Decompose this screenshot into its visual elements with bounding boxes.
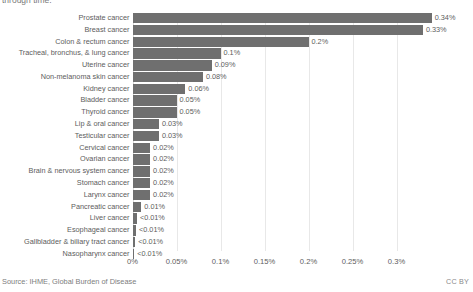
x-axis-tick-label: 0% bbox=[127, 256, 138, 268]
category-label: Brain & nervous system cancer bbox=[29, 166, 130, 176]
bar[interactable] bbox=[133, 13, 432, 23]
category-label: Gallbladder & biliary tract cancer bbox=[24, 237, 129, 247]
category-label: Cervical cancer bbox=[79, 143, 129, 153]
bar-value-label: 0.06% bbox=[188, 84, 209, 94]
bar-row[interactable]: Breast cancer0.33% bbox=[0, 25, 473, 35]
bar-value-label: <0.01% bbox=[140, 213, 165, 223]
bar-value-label: 0.2% bbox=[312, 37, 329, 47]
category-label: Kidney cancer bbox=[83, 84, 129, 94]
bar-row[interactable]: Tracheal, bronchus, & lung cancer0.1% bbox=[0, 48, 473, 58]
bar-value-label: 0.01% bbox=[144, 202, 165, 212]
category-label: Ovarian cancer bbox=[80, 154, 129, 164]
x-axis: 0%0.05%0.1%0.15%0.2%0.25%0.3% bbox=[0, 256, 473, 268]
bar-row[interactable]: Lip & oral cancer0.03% bbox=[0, 119, 473, 129]
bar-row[interactable]: Uterine cancer0.09% bbox=[0, 60, 473, 70]
x-axis-tick-label: 0.05% bbox=[166, 256, 188, 268]
bar[interactable] bbox=[133, 25, 423, 35]
bar-row[interactable]: Larynx cancer0.02% bbox=[0, 190, 473, 200]
category-label: Tracheal, bronchus, & lung cancer bbox=[19, 48, 130, 58]
category-label: Non-melanoma skin cancer bbox=[41, 72, 130, 82]
bar-row[interactable]: Brain & nervous system cancer0.02% bbox=[0, 166, 473, 176]
category-label: Pancreatic cancer bbox=[71, 202, 129, 212]
subtitle-fragment: through time. bbox=[2, 0, 202, 9]
bar-rows: Prostate cancer0.34%Breast cancer0.33%Co… bbox=[0, 13, 473, 260]
bar-value-label: 0.34% bbox=[435, 13, 456, 23]
bar[interactable] bbox=[133, 143, 151, 153]
category-label: Colon & rectum cancer bbox=[55, 37, 129, 47]
bar[interactable] bbox=[133, 107, 177, 117]
bar-row[interactable]: Liver cancer<0.01% bbox=[0, 213, 473, 223]
bar[interactable] bbox=[133, 237, 136, 247]
bar-value-label: 0.02% bbox=[153, 143, 174, 153]
subtitle-fragment-text: through time. bbox=[2, 0, 202, 5]
bar[interactable] bbox=[133, 190, 151, 200]
source-note: Source: IHME, Global Burden of Disease bbox=[2, 277, 136, 287]
bar[interactable] bbox=[133, 202, 142, 212]
x-axis-tick-label: 0.15% bbox=[254, 256, 276, 268]
bar-row[interactable]: Bladder cancer0.05% bbox=[0, 95, 473, 105]
bar-row[interactable]: Ovarian cancer0.02% bbox=[0, 154, 473, 164]
x-axis-tick-label: 0.1% bbox=[212, 256, 229, 268]
x-axis-tick-label: 0.3% bbox=[388, 256, 405, 268]
bar[interactable] bbox=[133, 60, 212, 70]
bar-value-label: 0.02% bbox=[153, 178, 174, 188]
bar[interactable] bbox=[133, 154, 151, 164]
bar-row[interactable]: Non-melanoma skin cancer0.08% bbox=[0, 72, 473, 82]
bar-row[interactable]: Kidney cancer0.06% bbox=[0, 84, 473, 94]
bar-value-label: 0.05% bbox=[180, 95, 201, 105]
category-label: Prostate cancer bbox=[78, 13, 129, 23]
category-label: Bladder cancer bbox=[80, 95, 129, 105]
bar[interactable] bbox=[133, 84, 186, 94]
license-note: CC BY bbox=[446, 277, 469, 287]
bar-value-label: 0.02% bbox=[153, 166, 174, 176]
bar-row[interactable]: Cervical cancer0.02% bbox=[0, 143, 473, 153]
bar[interactable] bbox=[133, 72, 203, 82]
bar-row[interactable]: Gallbladder & biliary tract cancer<0.01% bbox=[0, 237, 473, 247]
bar-value-label: 0.09% bbox=[215, 60, 236, 70]
category-label: Thyroid cancer bbox=[81, 107, 129, 117]
bar-row[interactable]: Esophageal cancer<0.01% bbox=[0, 225, 473, 235]
bar[interactable] bbox=[133, 166, 151, 176]
bar[interactable] bbox=[133, 119, 159, 129]
bar-row[interactable]: Pancreatic cancer0.01% bbox=[0, 202, 473, 212]
bar[interactable] bbox=[133, 131, 159, 141]
bar-row[interactable]: Prostate cancer0.34% bbox=[0, 13, 473, 23]
bar-value-label: 0.1% bbox=[224, 48, 241, 58]
bar-value-label: 0.08% bbox=[206, 72, 227, 82]
category-label: Esophageal cancer bbox=[67, 225, 129, 235]
bar-value-label: 0.33% bbox=[426, 25, 447, 35]
x-axis-tick-label: 0.2% bbox=[300, 256, 317, 268]
bar[interactable] bbox=[133, 95, 177, 105]
bar[interactable] bbox=[133, 213, 137, 223]
bar-value-label: 0.02% bbox=[153, 154, 174, 164]
category-label: Liver cancer bbox=[90, 213, 130, 223]
bar-row[interactable]: Stomach cancer0.02% bbox=[0, 178, 473, 188]
bar-value-label: <0.01% bbox=[139, 225, 164, 235]
bar-row[interactable]: Thyroid cancer0.05% bbox=[0, 107, 473, 117]
plot-area: Prostate cancer0.34%Breast cancer0.33%Co… bbox=[0, 13, 473, 251]
bar-value-label: 0.05% bbox=[180, 107, 201, 117]
bar[interactable] bbox=[133, 225, 137, 235]
category-label: Stomach cancer bbox=[77, 178, 130, 188]
bar-value-label: 0.03% bbox=[162, 119, 183, 129]
bar-row[interactable]: Colon & rectum cancer0.2% bbox=[0, 37, 473, 47]
category-label: Larynx cancer bbox=[84, 190, 130, 200]
bar[interactable] bbox=[133, 48, 221, 58]
bar[interactable] bbox=[133, 178, 151, 188]
x-axis-tick-label: 0.25% bbox=[342, 256, 364, 268]
bar-chart: through time. Prostate cancer0.34%Breast… bbox=[0, 0, 473, 292]
bar[interactable] bbox=[133, 37, 309, 47]
bar-value-label: <0.01% bbox=[138, 237, 163, 247]
category-label: Lip & oral cancer bbox=[75, 119, 130, 129]
bar-row[interactable]: Testicular cancer0.03% bbox=[0, 131, 473, 141]
bar-value-label: 0.03% bbox=[162, 131, 183, 141]
category-label: Testicular cancer bbox=[75, 131, 130, 141]
category-label: Breast cancer bbox=[84, 25, 129, 35]
category-label: Uterine cancer bbox=[82, 60, 129, 70]
bar-value-label: 0.02% bbox=[153, 190, 174, 200]
